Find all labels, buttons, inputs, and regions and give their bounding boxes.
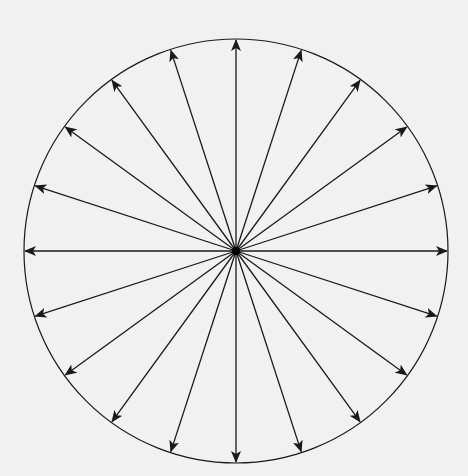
radial-arrow	[236, 50, 301, 251]
radial-arrow-diagram	[0, 0, 468, 476]
radial-arrow	[35, 186, 236, 251]
center-point	[232, 247, 240, 255]
radial-arrow	[236, 251, 301, 452]
radial-arrow	[35, 251, 236, 316]
radial-arrow	[112, 251, 236, 422]
radial-arrow	[65, 127, 236, 251]
radial-arrow	[236, 186, 437, 251]
radial-arrow	[236, 80, 360, 251]
radial-arrow	[112, 80, 236, 251]
radial-arrow	[236, 251, 437, 316]
radial-arrow	[236, 127, 407, 251]
radial-arrow	[236, 251, 360, 422]
radial-arrow	[65, 251, 236, 375]
radial-arrow	[171, 50, 236, 251]
radial-arrow	[236, 251, 407, 375]
radial-arrow	[171, 251, 236, 452]
